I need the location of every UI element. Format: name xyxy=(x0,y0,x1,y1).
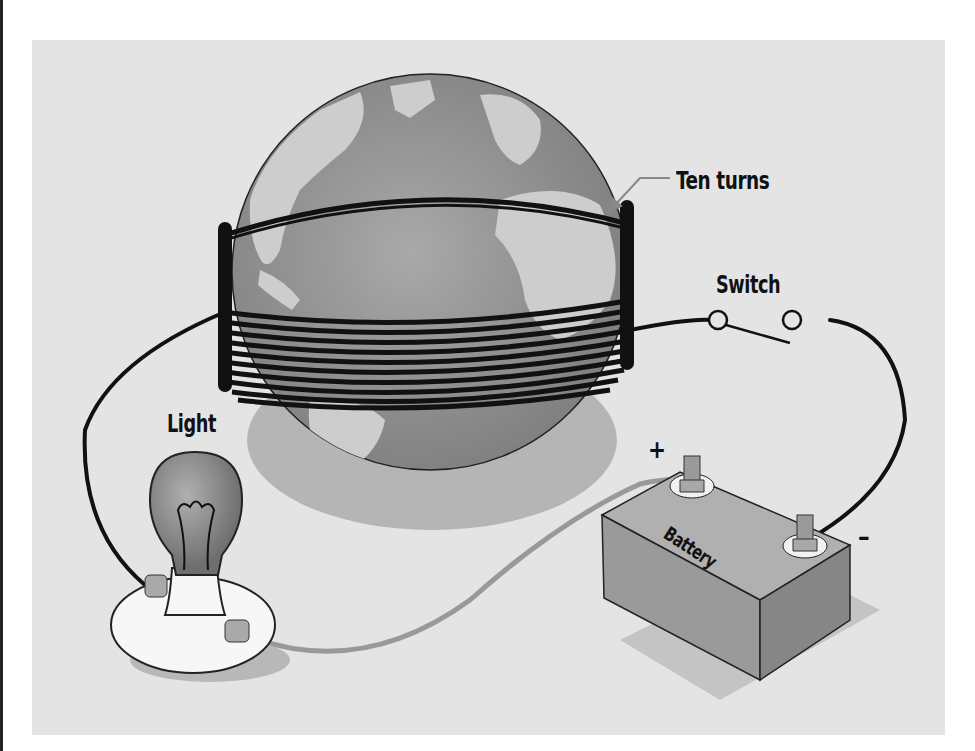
switch-label: Switch xyxy=(716,271,780,299)
light-bulb xyxy=(111,452,290,682)
negative-terminal-label: – xyxy=(858,522,869,552)
circuit-illustration xyxy=(0,0,975,751)
globe xyxy=(232,74,628,474)
battery xyxy=(602,456,880,700)
light-label: Light xyxy=(167,410,216,438)
switch xyxy=(709,311,801,343)
wire-switch-to-battery xyxy=(808,320,905,540)
coil-label: Ten turns xyxy=(676,166,769,195)
coil-pointer-arrow xyxy=(608,178,670,212)
positive-terminal-label: + xyxy=(648,436,666,464)
wire-coil-to-switch xyxy=(630,320,712,330)
